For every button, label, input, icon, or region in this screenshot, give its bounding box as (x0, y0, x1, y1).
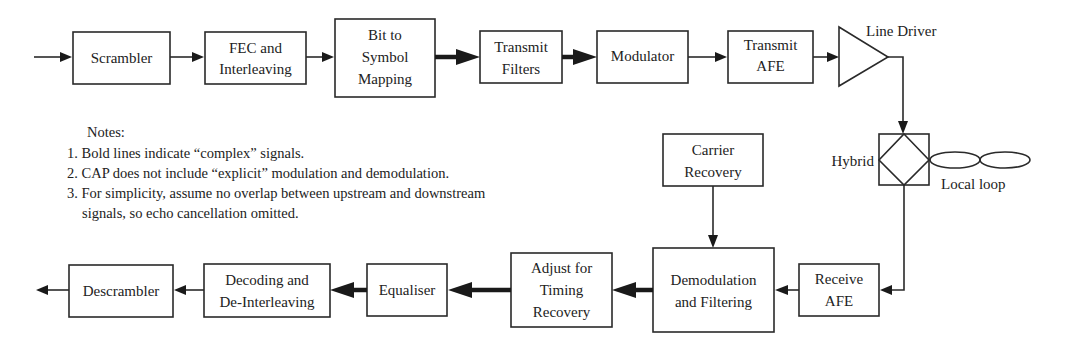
arrow-receiveafe-demod (775, 285, 799, 295)
fec-interleaving-block: FEC and Interleaving (205, 32, 306, 84)
receive-afe-label-line2: AFE (825, 293, 853, 309)
transmit-filters-label-line2: Filters (502, 61, 540, 77)
arrow-fec-bitsymbol (306, 52, 334, 62)
transmit-afe-block: Transmit AFE (728, 31, 813, 83)
arrow-afe-linedriver (813, 52, 839, 62)
hybrid-label: Hybrid (832, 153, 875, 169)
note-3-continued: signals, so echo cancellation omitted. (82, 205, 299, 221)
note-1: 1. Bold lines indicate “complex” signals… (67, 145, 304, 161)
transmit-afe-label-line2: AFE (756, 58, 784, 74)
fec-label-line2: Interleaving (219, 61, 292, 77)
receive-afe-label-line1: Receive (815, 271, 864, 287)
bit-to-symbol-block: Bit to Symbol Mapping (335, 19, 435, 97)
adjust-timing-recovery-block: Adjust for Timing Recovery (511, 253, 612, 327)
arrow-bitsymbol-filters-bold (435, 49, 480, 65)
hybrid-block (879, 134, 929, 185)
arrow-adjust-equaliser-bold (448, 282, 511, 298)
adjust-timing-label-line2: Timing (540, 282, 584, 298)
scrambler-block: Scrambler (73, 32, 170, 84)
arrow-carrier-demod (708, 186, 718, 248)
local-loop-label: Local loop (941, 176, 1006, 192)
arrow-decoding-descrambler (174, 285, 204, 295)
arrow-demod-adjust-bold (612, 282, 653, 298)
scrambler-label: Scrambler (91, 50, 153, 66)
decoding-deinterleaving-block: Decoding and De-Interleaving (204, 264, 330, 317)
arrow-scrambler-fec (170, 52, 204, 62)
adjust-timing-label-line3: Recovery (533, 304, 591, 320)
arrow-modulator-afe (688, 52, 727, 62)
fec-label-line1: FEC and (229, 40, 282, 56)
arrow-hybrid-receive-afe (880, 185, 904, 295)
arrow-filters-modulator-bold (562, 49, 597, 65)
notes: Notes: 1. Bold lines indicate “complex” … (67, 124, 486, 221)
demodulation-label-line1: Demodulation (671, 272, 757, 288)
equaliser-label: Equaliser (379, 282, 436, 298)
transmit-filters-label-line1: Transmit (494, 39, 548, 55)
descrambler-label: Descrambler (83, 283, 160, 299)
demodulation-label-line2: and Filtering (675, 294, 753, 310)
bit-to-symbol-label-line2: Symbol (362, 49, 409, 65)
note-3: 3. For simplicity, assume no overlap bet… (67, 185, 486, 201)
bit-to-symbol-label-line1: Bit to (368, 27, 402, 43)
descrambler-block: Descrambler (69, 265, 173, 317)
dsl-transceiver-diagram: Scrambler FEC and Interleaving Bit to Sy… (0, 0, 1080, 342)
local-loop-icon (930, 152, 1030, 168)
note-2: 2. CAP does not include “explicit” modul… (67, 165, 449, 181)
line-driver-label: Line Driver (866, 23, 936, 39)
output-arrow (36, 285, 69, 295)
equaliser-block: Equaliser (367, 264, 447, 316)
decoding-label-line1: Decoding and (225, 272, 309, 288)
modulator-block: Modulator (597, 31, 688, 83)
transmit-filters-block: Transmit Filters (480, 31, 562, 83)
adjust-timing-label-line1: Adjust for (531, 260, 592, 276)
bit-to-symbol-label-line3: Mapping (358, 71, 413, 87)
transmit-afe-label-line1: Transmit (744, 37, 798, 53)
carrier-recovery-block: Carrier Recovery (663, 134, 763, 186)
carrier-recovery-label-line1: Carrier (692, 142, 734, 158)
demodulation-filtering-block: Demodulation and Filtering (653, 248, 774, 332)
notes-title: Notes: (87, 124, 125, 140)
decoding-label-line2: De-Interleaving (220, 294, 315, 310)
arrow-linedriver-hybrid (888, 57, 908, 134)
input-arrow (34, 52, 72, 62)
arrow-equaliser-decoding-bold (330, 282, 367, 298)
receive-afe-block: Receive AFE (799, 264, 879, 316)
carrier-recovery-label-line2: Recovery (684, 164, 742, 180)
modulator-label: Modulator (611, 48, 674, 64)
